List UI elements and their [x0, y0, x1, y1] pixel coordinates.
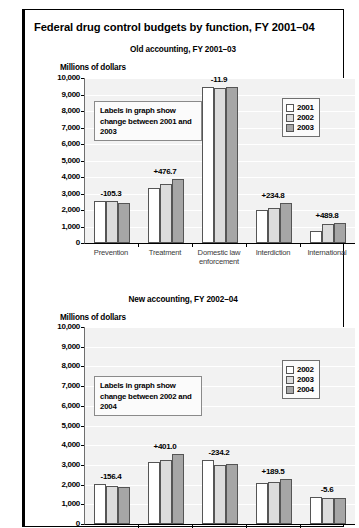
bar	[310, 231, 322, 243]
x-axis-tick-mark	[138, 244, 139, 247]
y-axis-tick-mark	[81, 347, 84, 348]
bar	[148, 188, 160, 243]
legend-item: 2002	[286, 365, 314, 374]
bar	[256, 483, 268, 524]
legend-swatch	[286, 386, 294, 394]
legend-item: 2001	[286, 103, 314, 112]
gridline	[85, 426, 355, 427]
y-axis-tick-label: 0	[40, 238, 80, 247]
bar	[322, 224, 334, 243]
bar-change-label: +489.8	[297, 211, 357, 220]
legend-item-label: 2003	[297, 375, 314, 384]
y-axis-tick-mark	[81, 366, 84, 367]
y-axis-tick-mark	[81, 161, 84, 162]
bar-change-label: +189.5	[243, 467, 303, 476]
legend-item-label: 2004	[297, 385, 314, 394]
bar	[94, 484, 106, 524]
y-axis-title: Millions of dollars	[60, 63, 126, 72]
y-axis-tick-label: 2,000	[40, 480, 80, 489]
y-axis-tick-mark	[81, 210, 84, 211]
bar	[280, 479, 292, 524]
legend-item: 2002	[286, 113, 314, 122]
bar	[214, 88, 226, 243]
y-axis-tick-label: 3,000	[40, 189, 80, 198]
y-axis-tick-label: 0	[40, 519, 80, 528]
y-axis-tick-label: 4,000	[40, 440, 80, 449]
bar	[118, 203, 130, 243]
y-axis-tick-mark	[81, 465, 84, 466]
bar	[214, 465, 226, 524]
y-axis-tick-mark	[81, 485, 84, 486]
bar	[226, 464, 238, 524]
chart-legend: 200220032004	[282, 360, 320, 399]
bar-change-label: +401.0	[135, 442, 195, 451]
bar-change-label: -156.4	[81, 472, 141, 481]
y-axis-tick-label: 4,000	[40, 172, 80, 181]
chart-subtitle: New accounting, FY 2002–04	[22, 295, 344, 304]
y-axis-tick-mark	[81, 386, 84, 387]
chart-subtitle: Old accounting, FY 2001–03	[22, 45, 344, 54]
y-axis-tick-label: 1,000	[40, 499, 80, 508]
bar-change-label: -105.3	[81, 189, 141, 198]
y-axis-tick-label: 5,000	[40, 421, 80, 430]
chart-note: Labels in graph show change between 2001…	[94, 101, 202, 141]
bar	[268, 208, 280, 243]
bar	[118, 487, 130, 524]
x-axis-tick-mark	[300, 244, 301, 247]
bar	[172, 179, 184, 243]
bar	[334, 223, 346, 243]
bar	[160, 184, 172, 243]
legend-swatch	[286, 124, 294, 132]
bar	[202, 460, 214, 524]
legend-swatch	[286, 114, 294, 122]
y-axis-tick-label: 10,000	[40, 73, 80, 82]
y-axis-title: Millions of dollars	[60, 313, 126, 322]
y-axis-tick-label: 8,000	[40, 361, 80, 370]
bar-change-label: +234.8	[243, 191, 303, 200]
bar	[148, 462, 160, 524]
chart-legend: 200120022003	[282, 98, 320, 137]
bar-change-label: -5.6	[297, 485, 357, 494]
y-axis-tick-mark	[81, 426, 84, 427]
legend-item-label: 2003	[297, 123, 314, 132]
bar	[160, 460, 172, 524]
bar	[256, 210, 268, 243]
y-axis-tick-label: 6,000	[40, 401, 80, 410]
page-title: Federal drug control budgets by function…	[34, 21, 334, 33]
legend-item: 2003	[286, 375, 314, 384]
y-axis-tick-mark	[81, 504, 84, 505]
bar	[322, 498, 334, 524]
y-axis-tick-label: 10,000	[40, 322, 80, 331]
gridline	[85, 327, 355, 328]
gridline	[85, 445, 355, 446]
bar	[334, 498, 346, 524]
bar	[268, 482, 280, 524]
legend-item-label: 2001	[297, 103, 314, 112]
bar-change-label: +476.7	[135, 167, 195, 176]
bar	[280, 203, 292, 243]
legend-swatch	[286, 376, 294, 384]
legend-item: 2004	[286, 385, 314, 394]
bar	[106, 486, 118, 524]
gridline	[85, 347, 355, 348]
y-axis-tick-mark	[81, 327, 84, 328]
x-axis-category-label: International	[294, 248, 359, 257]
legend-swatch	[286, 104, 294, 112]
legend-swatch	[286, 366, 294, 374]
y-axis-tick-label: 3,000	[40, 460, 80, 469]
y-axis-tick-mark	[81, 445, 84, 446]
y-axis-tick-label: 7,000	[40, 381, 80, 390]
bar	[94, 201, 106, 243]
y-axis-tick-label: 8,000	[40, 106, 80, 115]
y-axis-tick-mark	[81, 95, 84, 96]
bar	[202, 87, 214, 243]
legend-item-label: 2002	[297, 113, 314, 122]
bar-change-label: -234.2	[189, 448, 249, 457]
y-axis-tick-mark	[81, 128, 84, 129]
y-axis-tick-mark	[81, 111, 84, 112]
x-axis-tick-mark	[246, 244, 247, 247]
clipped-header-text	[6, 0, 126, 8]
y-axis-tick-label: 1,000	[40, 222, 80, 231]
y-axis-tick-mark	[81, 227, 84, 228]
